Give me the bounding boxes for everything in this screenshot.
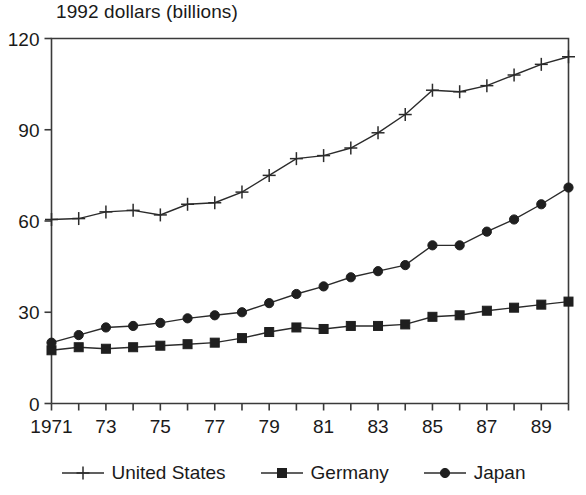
data-point-circle-marker [156, 318, 165, 327]
data-point-circle-marker [292, 289, 301, 298]
legend-entry-united-states: United States [61, 462, 226, 484]
data-point-circle-marker [74, 330, 83, 339]
data-point-square-marker [101, 344, 110, 353]
series-united-states [45, 50, 575, 226]
y-tick-label-60: 60 [18, 211, 39, 232]
square-marker-icon [260, 465, 304, 481]
chart-legend: United StatesGermanyJapan [0, 455, 586, 491]
data-point-circle-marker [47, 338, 56, 347]
series-japan [47, 183, 573, 347]
y-tick-label-120: 120 [8, 29, 40, 50]
data-point-circle-marker [346, 273, 355, 282]
data-point-square-marker [74, 343, 83, 352]
data-point-circle-marker [237, 308, 246, 317]
data-point-circle-marker [401, 261, 410, 270]
data-point-square-marker [292, 323, 301, 332]
plus-marker-icon [61, 465, 105, 481]
data-point-square-marker [319, 324, 328, 333]
data-point-square-marker [210, 338, 219, 347]
series-line [52, 57, 569, 220]
data-point-circle-marker [129, 321, 138, 330]
legend-entry-japan: Japan [423, 462, 526, 484]
y-tick-label-30: 30 [18, 302, 39, 323]
data-point-square-marker [537, 300, 546, 309]
circle-marker-icon [423, 465, 467, 481]
data-point-square-marker [129, 343, 138, 352]
data-point-square-marker [346, 321, 355, 330]
y-tick-label-90: 90 [18, 120, 39, 141]
data-point-circle-marker [210, 311, 219, 320]
legend-square-marker [277, 469, 286, 478]
data-point-circle-marker [428, 241, 437, 250]
data-point-square-marker [156, 341, 165, 350]
plot-area: 0306090120 1971737577798183858789 [0, 0, 586, 455]
data-point-circle-marker [183, 314, 192, 323]
data-point-circle-marker [101, 323, 110, 332]
x-tick-label-1975: 75 [150, 416, 171, 437]
x-axis: 1971737577798183858789 [30, 404, 568, 437]
legend-label: Germany [311, 462, 389, 484]
data-point-circle-marker [482, 227, 491, 236]
data-point-circle-marker [455, 241, 464, 250]
data-point-circle-marker [509, 215, 518, 224]
legend-label: Japan [474, 462, 526, 484]
legend-entry-germany: Germany [260, 462, 389, 484]
data-point-square-marker [482, 306, 491, 315]
data-point-circle-marker [373, 267, 382, 276]
x-tick-label-1971: 1971 [30, 416, 72, 437]
chart-figure: 1992 dollars (billions) 0306090120 19717… [0, 0, 586, 495]
legend-circle-marker [440, 468, 449, 477]
data-point-circle-marker [265, 299, 274, 308]
x-tick-label-1983: 83 [367, 416, 388, 437]
data-point-square-marker [237, 334, 246, 343]
data-point-circle-marker [564, 183, 573, 192]
x-tick-label-1979: 79 [259, 416, 280, 437]
data-point-circle-marker [319, 282, 328, 291]
data-point-square-marker [564, 297, 573, 306]
data-point-circle-marker [537, 200, 546, 209]
x-tick-label-1981: 81 [313, 416, 334, 437]
data-point-square-marker [374, 321, 383, 330]
data-point-square-marker [455, 311, 464, 320]
legend-label: United States [112, 462, 226, 484]
y-tick-label-0: 0 [29, 394, 40, 415]
data-series-group [45, 50, 575, 355]
data-point-square-marker [428, 312, 437, 321]
data-point-square-marker [265, 328, 274, 337]
data-point-square-marker [401, 320, 410, 329]
x-tick-label-1987: 87 [476, 416, 497, 437]
data-point-square-marker [183, 340, 192, 349]
x-tick-label-1973: 73 [95, 416, 116, 437]
x-tick-label-1977: 77 [204, 416, 225, 437]
data-point-square-marker [510, 303, 519, 312]
x-tick-label-1989: 89 [531, 416, 552, 437]
x-tick-label-1985: 85 [422, 416, 443, 437]
